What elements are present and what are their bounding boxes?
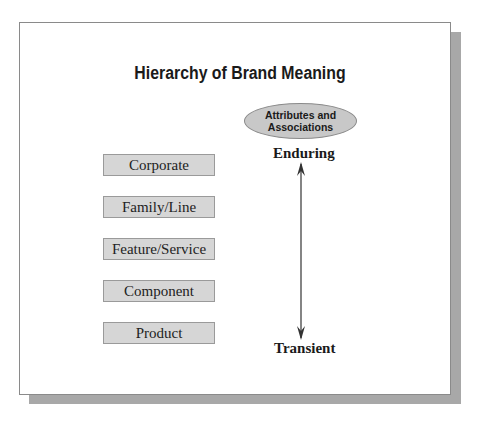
level-component: Component xyxy=(103,280,215,302)
attributes-ellipse: Attributes and Associations xyxy=(244,103,357,139)
ellipse-line-1: Attributes and xyxy=(245,109,356,121)
level-product: Product xyxy=(103,322,215,344)
diagram-title: Hierarchy of Brand Meaning xyxy=(29,63,451,84)
ellipse-line-2: Associations xyxy=(245,121,356,133)
double-arrow-icon xyxy=(290,160,312,342)
transient-label: Transient xyxy=(274,340,335,357)
level-corporate: Corporate xyxy=(103,154,215,176)
level-feature-service: Feature/Service xyxy=(103,238,215,260)
level-family-line: Family/Line xyxy=(103,196,215,218)
